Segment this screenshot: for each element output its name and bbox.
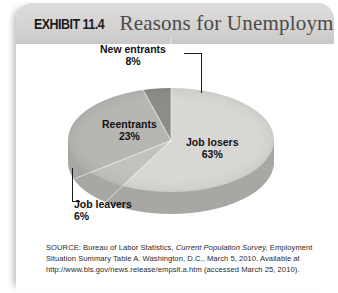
slice-value-text: 8% <box>100 55 166 67</box>
slice-label-job-leavers: Job leavers 6% <box>74 198 132 222</box>
slice-label-text: New entrants <box>100 43 166 55</box>
leader-line-new-entrants <box>184 53 202 54</box>
leader-line-new-entrants <box>201 53 202 93</box>
slice-value-text: 23% <box>102 130 157 142</box>
slice-label-text: Job leavers <box>74 198 132 210</box>
slice-separator <box>171 38 172 141</box>
source-prefix: SOURCE: Bureau of Labor Statistics, <box>46 243 176 252</box>
slice-label-reentrants: Reentrants 23% <box>102 118 157 142</box>
slice-label-job-losers: Job losers 63% <box>186 136 239 160</box>
source-note: SOURCE: Bureau of Labor Statistics, Curr… <box>46 243 318 275</box>
slice-value-text: 63% <box>186 148 239 160</box>
slice-label-new-entrants: New entrants 8% <box>100 43 166 67</box>
source-publication-title: Current Population Survey, <box>176 243 268 252</box>
leader-line-job-leavers <box>72 168 73 202</box>
slice-label-text: Job losers <box>186 136 239 148</box>
leader-line-job-leavers <box>72 201 80 202</box>
page-title: Reasons for Unemployment <box>119 11 334 36</box>
exhibit-header: EXHIBIT 11.4 Reasons for Unemployment <box>16 3 334 44</box>
exhibit-number: EXHIBIT 11.4 <box>34 16 104 32</box>
slice-label-text: Reentrants <box>102 118 157 130</box>
slice-value-text: 6% <box>74 210 132 222</box>
pie-chart: Job losers 63% Reentrants 23% New entran… <box>16 44 334 234</box>
pie-graphic <box>68 88 274 212</box>
